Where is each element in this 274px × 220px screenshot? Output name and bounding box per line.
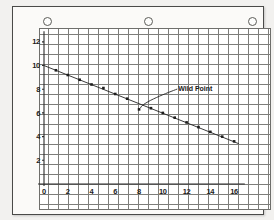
scanned-page-backdrop: 24681012 0246810121416 Wild Point — [0, 0, 274, 220]
data-point — [138, 108, 141, 111]
data-point — [90, 83, 93, 86]
data-point — [126, 97, 129, 100]
annotation-label: Wild Point — [178, 85, 213, 92]
data-point — [197, 126, 200, 129]
data-point — [114, 93, 117, 96]
y-tick-label: 12 — [32, 37, 40, 46]
x-tick-label: 8 — [137, 187, 141, 196]
y-tick-label: 2 — [36, 156, 40, 165]
data-point — [233, 140, 236, 143]
data-point — [102, 87, 105, 90]
plot-overlay: 24681012 0246810121416 Wild Point — [0, 0, 274, 220]
data-point — [221, 135, 224, 138]
data-point — [209, 131, 212, 134]
data-point — [173, 116, 176, 119]
y-axis-tick-labels: 24681012 — [32, 37, 44, 164]
y-tick-label: 8 — [36, 85, 40, 94]
data-point — [55, 69, 58, 72]
x-tick-label: 2 — [66, 187, 70, 196]
y-tick-label: 6 — [36, 109, 40, 118]
y-tick-label: 10 — [32, 61, 40, 70]
x-tick-label: 10 — [159, 187, 167, 196]
x-tick-label: 4 — [90, 187, 95, 196]
data-point — [185, 121, 188, 124]
y-tick-label: 4 — [36, 132, 41, 141]
x-axis-tick-labels: 0246810121416 — [42, 187, 238, 196]
annotation-leader-line — [140, 89, 177, 108]
x-tick-label: 16 — [230, 187, 238, 196]
x-tick-label: 0 — [42, 187, 46, 196]
x-tick-label: 12 — [183, 187, 191, 196]
data-point — [162, 112, 165, 115]
axes — [38, 31, 245, 186]
annotations: Wild Point — [140, 85, 213, 108]
data-point — [150, 107, 153, 110]
x-tick-label: 6 — [113, 187, 117, 196]
data-point — [66, 74, 69, 77]
x-tick-label: 14 — [206, 187, 215, 196]
data-point — [78, 78, 81, 81]
